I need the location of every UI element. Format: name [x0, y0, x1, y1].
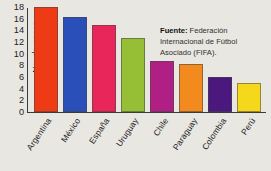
x-axis-tick: España	[87, 116, 112, 146]
y-axis-tick: 0	[19, 108, 24, 117]
x-axis-tick: Paraguay	[170, 116, 199, 152]
bar[interactable]	[63, 17, 87, 112]
bar-slot	[92, 8, 116, 112]
bars-container	[28, 8, 266, 112]
y-axis-tick: 2	[19, 97, 24, 106]
y-axis-tick: 18	[14, 3, 24, 12]
y-axis-tick: 4	[19, 85, 24, 94]
x-axis-tick: Chile	[151, 116, 170, 138]
plot-area: No. de veces 024681012141618	[27, 8, 266, 113]
x-tick-slot: España	[91, 114, 115, 170]
x-tick-slot: Uruguay	[120, 114, 144, 170]
x-tick-slot: México	[62, 114, 86, 170]
bar-slot	[34, 8, 58, 112]
y-axis-tick: 6	[19, 73, 24, 82]
x-axis-tick: Uruguay	[114, 116, 140, 148]
bar[interactable]	[179, 64, 203, 112]
x-axis-tick: Perú	[239, 116, 257, 137]
bar[interactable]	[150, 61, 174, 112]
source-note: Fuente: Federación Internacional de Fútb…	[160, 26, 266, 58]
x-tick-slot: Argentina	[33, 114, 57, 170]
x-axis-tick: México	[59, 116, 82, 144]
bar[interactable]	[208, 77, 232, 112]
bar[interactable]	[92, 25, 116, 113]
bar-slot	[208, 8, 232, 112]
bar[interactable]	[34, 7, 58, 112]
y-axis-tick: 14	[14, 27, 24, 36]
bar[interactable]	[121, 38, 145, 112]
x-tick-slot: Chile	[150, 114, 174, 170]
bar-slot	[237, 8, 261, 112]
bar-slot	[179, 8, 203, 112]
y-axis-tick: 16	[14, 15, 24, 24]
bar-slot	[121, 8, 145, 112]
y-axis-tick: 10	[14, 50, 24, 59]
bar[interactable]	[237, 83, 261, 112]
bar-chart-figure: No. de veces 024681012141618 ArgentinaMé…	[0, 0, 271, 171]
x-tick-slot: Paraguay	[179, 114, 203, 170]
y-axis-tick: 12	[14, 38, 24, 47]
y-axis-tick-labels: 024681012141618	[6, 8, 24, 113]
x-axis-tick: Colombia	[200, 116, 229, 152]
bar-slot	[150, 8, 174, 112]
x-axis-tick: Argentina	[24, 116, 53, 152]
x-tick-slot: Perú	[237, 114, 261, 170]
source-label: Fuente:	[160, 26, 187, 35]
bar-slot	[63, 8, 87, 112]
x-axis-tick-labels: ArgentinaMéxicoEspañaUruguayChileParagua…	[27, 114, 266, 170]
x-tick-slot: Colombia	[208, 114, 232, 170]
y-axis-tick: 8	[19, 62, 24, 71]
